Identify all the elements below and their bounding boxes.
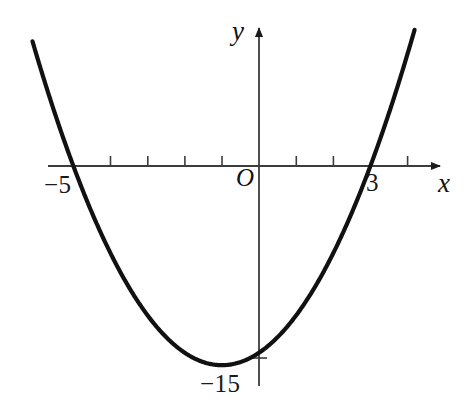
y-axis-label: y bbox=[232, 18, 244, 45]
parabola-curve-rendered bbox=[33, 30, 415, 365]
y-intercept-label: −15 bbox=[200, 371, 241, 396]
graph-canvas bbox=[0, 0, 470, 403]
x-axis-label: x bbox=[438, 170, 450, 197]
origin-label: O bbox=[236, 165, 254, 190]
x-intercept-left-label: −5 bbox=[44, 172, 72, 197]
x-intercept-right-label: 3 bbox=[366, 170, 379, 195]
parabola-figure: y x O −5 3 −15 bbox=[0, 0, 470, 403]
